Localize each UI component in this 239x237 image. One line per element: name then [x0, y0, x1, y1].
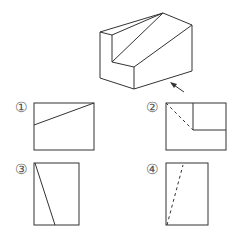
option-4-label: ④: [146, 162, 159, 176]
diagram-canvas: [0, 0, 239, 237]
option-1-label: ①: [15, 100, 28, 114]
option-3-view[interactable]: [34, 163, 79, 225]
option-2-view[interactable]: [166, 103, 226, 150]
option-1-view[interactable]: [34, 103, 94, 150]
solid-3d: [100, 13, 192, 89]
view-arrow-icon: [170, 82, 184, 92]
option-3-label: ③: [15, 162, 28, 176]
option-4-view[interactable]: [166, 163, 208, 225]
option-2-label: ②: [146, 100, 159, 114]
